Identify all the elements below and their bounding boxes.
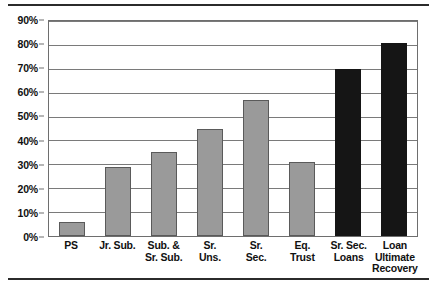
y-axis-tick-mark xyxy=(39,164,44,165)
y-axis-tick-mark xyxy=(39,92,44,93)
y-axis-tick-label: 90% xyxy=(18,14,38,26)
bar xyxy=(105,167,131,236)
x-axis-label-line: Recovery xyxy=(372,263,418,275)
x-axis: PSJr. Sub.Sub. &Sr. Sub.Sr.Uns.Sr.Sec.Eq… xyxy=(48,240,418,275)
bar xyxy=(243,100,269,236)
x-axis-tick-label: Sr. Sec.Loans xyxy=(326,240,372,275)
x-axis-label-line: Sec. xyxy=(233,252,279,264)
y-axis-tick-label: 60% xyxy=(18,86,38,98)
bar-slot xyxy=(325,21,371,236)
x-axis-label-line: Sr. Sub. xyxy=(141,252,187,264)
y-axis: 0%10%20%30%40%50%60%70%80%90% xyxy=(0,20,44,237)
bar xyxy=(381,43,407,237)
y-axis-tick-mark xyxy=(39,212,44,213)
x-axis-tick-label: Sub. &Sr. Sub. xyxy=(141,240,187,275)
y-axis-tick-mark xyxy=(39,140,44,141)
y-axis-tick-label: 50% xyxy=(18,110,38,122)
x-axis-label-line: Sub. & xyxy=(141,240,187,252)
y-axis-tick-mark xyxy=(39,237,44,238)
bar xyxy=(197,129,223,237)
y-axis-tick-label: 20% xyxy=(18,183,38,195)
bar-slot xyxy=(49,21,95,236)
x-axis-tick-label: PS xyxy=(48,240,94,275)
x-axis-label-line: Uns. xyxy=(187,252,233,264)
x-axis-label-line: Jr. Sub. xyxy=(94,240,140,252)
bar-series xyxy=(49,21,417,236)
y-axis-tick-mark xyxy=(39,44,44,45)
x-axis-label-line: Sr. Sec. xyxy=(326,240,372,252)
y-axis-tick-label: 40% xyxy=(18,135,38,147)
y-axis-tick-label: 10% xyxy=(18,207,38,219)
x-axis-tick-label: Eq.Trust xyxy=(279,240,325,275)
bar xyxy=(335,69,361,236)
plot-area xyxy=(48,20,418,237)
x-axis-label-line: Sr. xyxy=(233,240,279,252)
y-axis-tick-label: 30% xyxy=(18,159,38,171)
bar-slot xyxy=(95,21,141,236)
y-axis-tick-mark xyxy=(39,20,44,21)
y-axis-tick-label: 0% xyxy=(23,231,38,243)
y-axis-tick-mark xyxy=(39,116,44,117)
top-horizontal-rule xyxy=(8,4,429,6)
bar xyxy=(59,222,85,236)
bar-slot xyxy=(371,21,417,236)
x-axis-tick-label: Sr.Sec. xyxy=(233,240,279,275)
x-axis-tick-label: Jr. Sub. xyxy=(94,240,140,275)
x-axis-tick-label: LoanUltimateRecovery xyxy=(372,240,418,275)
bar-slot xyxy=(141,21,187,236)
bottom-horizontal-rule xyxy=(8,278,429,280)
y-axis-tick-mark xyxy=(39,188,44,189)
bar-slot xyxy=(187,21,233,236)
bar xyxy=(289,162,315,236)
y-axis-tick-mark xyxy=(39,68,44,69)
x-axis-label-line: Eq. xyxy=(279,240,325,252)
x-axis-label-line: Sr. xyxy=(187,240,233,252)
bar xyxy=(151,152,177,236)
bar-slot xyxy=(279,21,325,236)
bar-chart-figure: 0%10%20%30%40%50%60%70%80%90% PSJr. Sub.… xyxy=(0,0,437,295)
x-axis-label-line: Loan xyxy=(372,240,418,252)
x-axis-label-line: Loans xyxy=(326,252,372,264)
x-axis-label-line: Trust xyxy=(279,252,325,264)
x-axis-tick-label: Sr.Uns. xyxy=(187,240,233,275)
y-axis-tick-label: 80% xyxy=(18,38,38,50)
y-axis-tick-label: 70% xyxy=(18,62,38,74)
bar-slot xyxy=(233,21,279,236)
x-axis-label-line: PS xyxy=(48,240,94,252)
